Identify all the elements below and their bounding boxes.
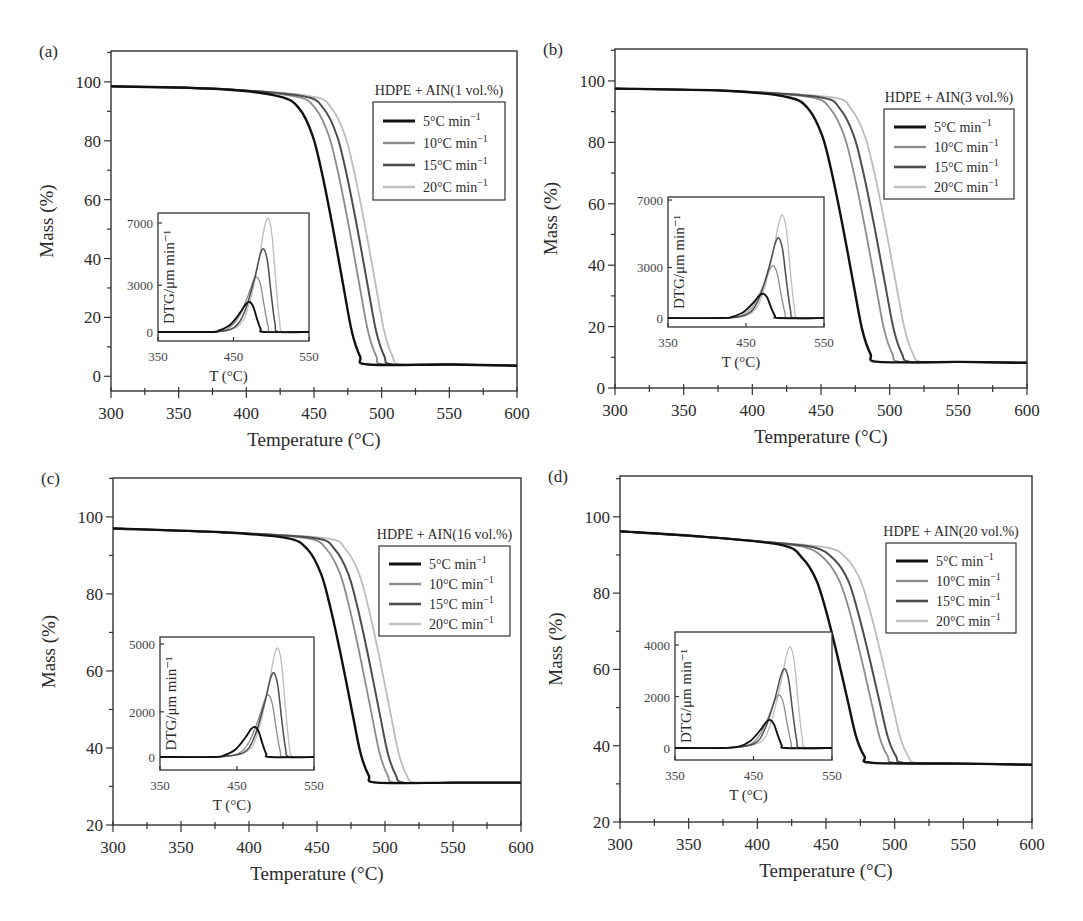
y-tick-label: 40 [84,250,101,269]
y-tick-label: 20 [593,813,610,832]
y-tick-label: 100 [78,508,104,527]
x-tick-label: 300 [607,835,633,854]
y-axis-title: Mass (%) [38,615,60,688]
legend-label-main: 10°C min [934,140,988,155]
legend-label-superscript: −1 [476,554,487,565]
inset-y-tick-label: 0 [149,750,156,765]
y-axis-title: Mass (%) [540,182,562,255]
figure-canvas: (a)300350400450500550600Temperature (°C)… [0,0,1083,921]
inset-y-axis-title: DTG/μm min⁻¹ [163,656,179,750]
panel-label: (a) [39,42,58,61]
panel-a: (a)300350400450500550600Temperature (°C)… [36,42,530,451]
tga-figure: (a)300350400450500550600Temperature (°C)… [0,0,1083,921]
inset-x-tick-label: 350 [148,349,168,364]
inset-y-tick-label: 3000 [127,278,153,293]
panel-c: (c)300350400450500550600Temperature (°C)… [38,469,534,885]
x-tick-label: 550 [437,404,463,423]
x-tick-label: 400 [236,838,262,857]
y-tick-label: 100 [585,508,611,527]
inset-dtg: 350450550030007000T (°C)DTG/μm min⁻¹ [127,213,319,385]
inset-dtg: 350450550020004000T (°C)DTG/μm min⁻¹ [644,632,842,804]
legend: 5°C min−110°C min−115°C min−120°C min−1 [886,543,1016,633]
legend-label-main: 20°C min [934,180,988,195]
y-tick-label: 20 [84,308,101,327]
x-axis-title: Temperature (°C) [247,429,380,451]
inset-x-axis-title: T (°C) [729,787,768,804]
inset-y-tick-label: 3000 [637,260,663,275]
inset-x-tick-label: 550 [814,335,834,350]
y-tick-label: 80 [593,584,610,603]
inset-y-tick-label: 2000 [644,690,670,705]
x-tick-label: 300 [98,404,124,423]
inset-x-tick-label: 550 [304,778,324,793]
x-tick-label: 500 [882,835,908,854]
y-tick-label: 60 [588,195,605,214]
inset-x-axis-title: T (°C) [722,354,761,371]
inset-y-tick-label: 7000 [637,193,663,208]
x-tick-label: 500 [877,401,903,420]
x-axis: 300350400450500550600Temperature (°C) [602,384,1040,448]
x-tick-label: 600 [1019,835,1045,854]
legend-label-superscript: −1 [470,111,481,122]
legend-label-superscript: −1 [477,133,488,144]
x-tick-label: 450 [304,838,330,857]
legend-label-superscript: −1 [990,591,1001,602]
sample-title: HDPE + AIN(3 vol.%) [885,90,1014,106]
inset-x-tick-label: 550 [299,349,319,364]
inset-x-axis-title: T (°C) [213,797,252,814]
sample-title: HDPE + AIN(20 vol.%) [883,524,1019,540]
x-tick-label: 600 [508,838,534,857]
legend-label-main: 10°C min [429,577,483,592]
inset-x-axis-title: T (°C) [209,368,248,385]
x-axis: 300350400450500550600Temperature (°C) [607,818,1045,882]
x-tick-label: 350 [671,401,697,420]
y-axis-title: Mass (%) [36,184,58,257]
legend-label-main: 20°C min [423,180,477,195]
legend-label-main: 5°C min [429,557,476,572]
x-axis-title: Temperature (°C) [759,860,892,882]
legend-label-main: 5°C min [934,120,981,135]
legend-label-superscript: −1 [990,611,1001,622]
legend-label-superscript: −1 [477,177,488,188]
legend: 5°C min−110°C min−115°C min−120°C min−1 [884,109,1014,199]
y-axis: 20406080100Mass (%) [38,478,113,835]
inset-dtg: 350450550020005000T (°C)DTG/μm min⁻¹ [129,637,324,814]
y-tick-label: 60 [84,191,101,210]
y-tick-label: 20 [86,816,103,835]
legend-label-main: 5°C min [936,554,983,569]
x-tick-label: 400 [740,401,766,420]
x-tick-label: 600 [504,404,530,423]
legend-label-main: 20°C min [429,617,483,632]
legend-label-superscript: −1 [483,594,494,605]
x-tick-label: 400 [234,404,260,423]
y-tick-label: 80 [84,132,101,151]
inset-x-tick-label: 450 [736,335,756,350]
inset-x-tick-label: 450 [227,778,247,793]
y-axis: 020406080100Mass (%) [36,52,111,386]
inset-y-tick-label: 2000 [129,705,155,720]
inset-y-axis-title: DTG/μm min⁻¹ [678,649,694,743]
panel-d: (d)300350400450500550600Temperature (°C)… [545,467,1045,882]
legend: 5°C min−110°C min−115°C min−120°C min−1 [373,102,505,200]
legend-label-main: 20°C min [936,614,990,629]
inset-frame [160,637,314,770]
x-tick-label: 300 [602,401,628,420]
inset-x-tick-label: 550 [822,768,842,783]
legend-label-main: 5°C min [423,114,470,129]
inset-y-axis-title: DTG/μm min⁻¹ [161,230,177,324]
legend-label-main: 10°C min [423,136,477,151]
x-tick-label: 550 [946,401,972,420]
legend-label-superscript: −1 [483,614,494,625]
x-tick-label: 400 [745,835,771,854]
x-tick-label: 450 [301,404,327,423]
y-tick-label: 80 [86,585,103,604]
legend-label-main: 15°C min [423,158,477,173]
inset-y-tick-label: 4000 [644,638,670,653]
y-axis: 020406080100Mass (%) [540,50,615,398]
legend-label-main: 10°C min [936,574,990,589]
inset-frame [668,197,824,327]
y-tick-label: 100 [580,72,606,91]
y-tick-label: 0 [93,367,102,386]
x-tick-label: 600 [1014,401,1040,420]
x-tick-label: 550 [440,838,466,857]
